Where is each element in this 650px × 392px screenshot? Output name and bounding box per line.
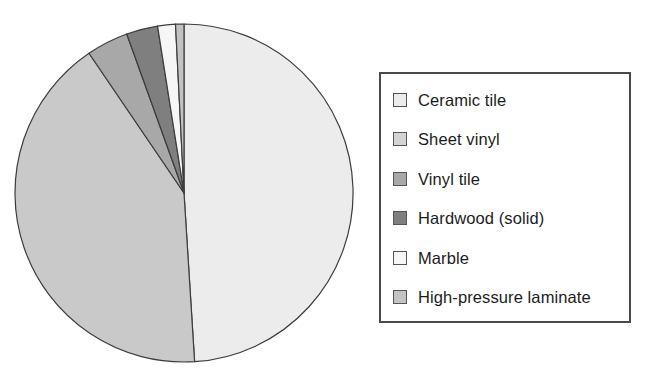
legend-item-marble[interactable]: Marble [393, 239, 623, 277]
legend-item-label: Vinyl tile [418, 171, 480, 188]
legend-swatch-icon [393, 211, 407, 225]
legend-item-label: Sheet vinyl [418, 131, 500, 148]
legend-item-label: Marble [418, 250, 469, 267]
legend-swatch-icon [393, 251, 407, 265]
legend-item-ceramic-tile[interactable]: Ceramic tile [393, 81, 623, 119]
legend-swatch-icon [393, 132, 407, 146]
legend-item-label: Hardwood (solid) [418, 210, 544, 227]
chart-figure: Ceramic tile Sheet vinyl Vinyl tile Hard… [0, 0, 650, 392]
legend-item-sheet-vinyl[interactable]: Sheet vinyl [393, 120, 623, 158]
legend-item-vinyl-tile[interactable]: Vinyl tile [393, 160, 623, 198]
legend-item-high-pressure-laminate[interactable]: High-pressure laminate [393, 278, 623, 316]
pie-slice-group [15, 24, 353, 362]
legend-swatch-icon [393, 93, 407, 107]
legend-item-label: Ceramic tile [418, 92, 506, 109]
legend-box: Ceramic tile Sheet vinyl Vinyl tile Hard… [379, 72, 631, 323]
legend-list: Ceramic tile Sheet vinyl Vinyl tile Hard… [393, 80, 623, 317]
legend-item-hardwood-solid[interactable]: Hardwood (solid) [393, 199, 623, 237]
legend-swatch-icon [393, 290, 407, 304]
pie-chart [0, 0, 370, 392]
pie-chart-svg [0, 0, 370, 392]
legend-item-label: High-pressure laminate [418, 289, 591, 306]
legend-swatch-icon [393, 172, 407, 186]
pie-slice[interactable] [184, 24, 353, 362]
